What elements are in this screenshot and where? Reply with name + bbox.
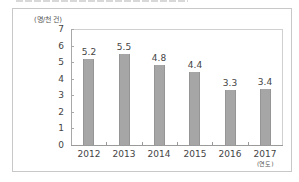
- x-tick-mark: [177, 142, 178, 145]
- bar-2012: [83, 59, 94, 145]
- data-label: 4.8: [144, 53, 174, 63]
- x-tick-label: 2016: [212, 149, 248, 159]
- bar-2015: [189, 72, 200, 145]
- y-tick-label: 0: [52, 140, 64, 150]
- data-label: 3.3: [215, 78, 245, 88]
- y-tick-label: 7: [52, 24, 64, 34]
- y-tick-mark: [71, 62, 74, 63]
- x-tick-mark: [248, 142, 249, 145]
- x-tick-label: 2012: [71, 149, 107, 159]
- y-tick-label: 2: [52, 107, 64, 117]
- y-tick-label: 3: [52, 90, 64, 100]
- x-tick-label: 2017: [247, 149, 283, 159]
- x-tick-mark: [106, 142, 107, 145]
- x-axis: [71, 145, 283, 146]
- x-tick-label: 2015: [177, 149, 213, 159]
- bar-2014: [154, 65, 165, 145]
- bar-2013: [119, 54, 130, 145]
- y-axis-unit-label: (명/천 건): [34, 14, 62, 24]
- y-tick-label: 6: [52, 41, 64, 51]
- x-axis-unit-label: (연도): [257, 159, 274, 168]
- data-label: 4.4: [180, 60, 210, 70]
- y-tick-mark: [71, 79, 74, 80]
- data-label: 5.2: [74, 47, 104, 57]
- y-tick-mark: [71, 128, 74, 129]
- data-label: 3.4: [250, 77, 280, 87]
- bar-2017: [260, 89, 271, 145]
- y-tick-mark: [71, 95, 74, 96]
- y-tick-mark: [71, 112, 74, 113]
- x-tick-mark: [212, 142, 213, 145]
- x-tick-label: 2013: [106, 149, 142, 159]
- y-tick-label: 1: [52, 123, 64, 133]
- x-tick-mark: [142, 142, 143, 145]
- truncated-caption: [16, 0, 188, 2]
- y-tick-label: 4: [52, 74, 64, 84]
- y-tick-mark: [71, 29, 74, 30]
- data-label: 5.5: [109, 42, 139, 52]
- y-tick-label: 5: [52, 57, 64, 67]
- x-tick-label: 2014: [141, 149, 177, 159]
- bar-2016: [225, 90, 236, 145]
